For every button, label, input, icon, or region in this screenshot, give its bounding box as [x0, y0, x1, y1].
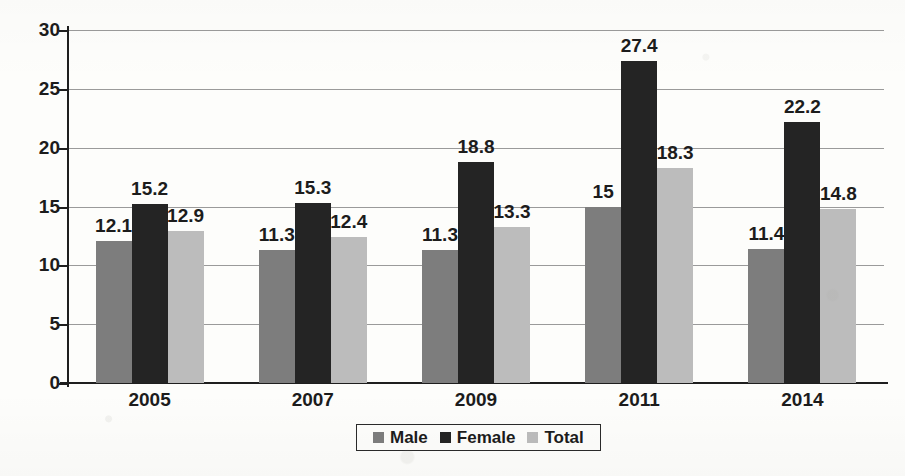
y-axis-tick-label: 15	[14, 196, 60, 218]
bar-value-label: 15.3	[281, 177, 345, 199]
bar-male-2009	[422, 250, 458, 383]
bar-group: 11.315.312.4	[259, 30, 367, 383]
bar-male-2005	[96, 241, 132, 383]
y-axis-tick-label: 10	[14, 254, 60, 276]
legend-swatch-icon	[373, 432, 384, 443]
y-axis-line	[67, 26, 69, 387]
bar-value-label: 18.3	[643, 142, 707, 164]
chart-legend: MaleFemaleTotal	[356, 424, 601, 451]
bar-value-label: 22.2	[770, 96, 834, 118]
x-axis-tick-label: 2005	[68, 389, 231, 411]
legend-label: Total	[544, 428, 583, 448]
bar-male-2011	[585, 207, 621, 384]
bar-total-2011	[657, 168, 693, 383]
x-axis-tick-labels: 20052007200920112014	[68, 389, 884, 419]
plot-area: 12.115.212.911.315.312.411.318.813.31527…	[68, 30, 884, 383]
bar-value-label: 12.9	[154, 205, 218, 227]
bar-total-2009	[494, 227, 530, 383]
x-axis-tick-label: 2011	[558, 389, 721, 411]
bar-value-label: 14.8	[806, 183, 870, 205]
x-axis-tick-label: 2009	[394, 389, 557, 411]
legend-label: Male	[390, 428, 428, 448]
bar-group: 1527.418.3	[585, 30, 693, 383]
x-axis-tick-label: 2007	[231, 389, 394, 411]
bar-group: 12.115.212.9	[96, 30, 204, 383]
bar-male-2007	[259, 250, 295, 383]
legend-entry-total[interactable]: Total	[527, 428, 583, 448]
grouped-bar-chart: Uemployment rate 051015202530 12.115.212…	[0, 0, 905, 476]
legend-swatch-icon	[440, 432, 451, 443]
y-axis-tick-labels: 051015202530	[8, 30, 60, 383]
bar-value-label: 15.2	[118, 178, 182, 200]
x-axis-tick-label: 2014	[721, 389, 884, 411]
bar-female-2005	[132, 204, 168, 383]
y-axis-tick-label: 20	[14, 137, 60, 159]
bar-female-2011	[621, 61, 657, 383]
legend-entry-female[interactable]: Female	[440, 428, 516, 448]
bar-group: 11.318.813.3	[422, 30, 530, 383]
y-axis-tick-label: 5	[14, 313, 60, 335]
y-axis-tick-label: 30	[14, 19, 60, 41]
y-axis-tick-label: 0	[14, 372, 60, 394]
legend-entry-male[interactable]: Male	[373, 428, 428, 448]
legend-label: Female	[457, 428, 516, 448]
bar-male-2014	[748, 249, 784, 383]
bar-value-label: 12.4	[317, 211, 381, 233]
bar-total-2005	[168, 231, 204, 383]
legend-swatch-icon	[527, 432, 538, 443]
y-axis-tick-label: 25	[14, 78, 60, 100]
bar-female-2014	[784, 122, 820, 383]
bar-total-2007	[331, 237, 367, 383]
bar-value-label: 13.3	[480, 201, 544, 223]
bar-value-label: 18.8	[444, 136, 508, 158]
bar-female-2009	[458, 162, 494, 383]
bar-total-2014	[820, 209, 856, 383]
bar-value-label: 27.4	[607, 35, 671, 57]
bar-group: 11.422.214.8	[748, 30, 856, 383]
